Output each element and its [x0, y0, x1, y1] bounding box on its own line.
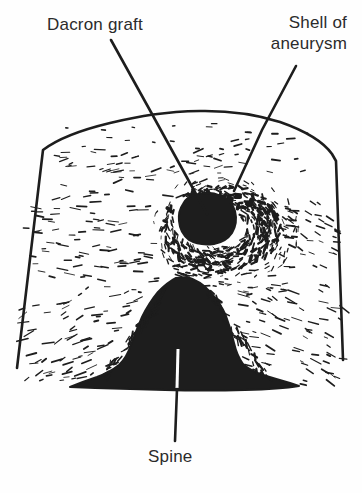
spine-leader-line: [175, 389, 177, 441]
dacron-graft-blob: [179, 193, 236, 245]
label-dacron-graft: Dacron graft: [47, 14, 143, 35]
medical-illustration-figure: Dacron graft Shell of aneurysm Spine: [0, 0, 362, 493]
label-spine: Spine: [148, 446, 192, 467]
label-shell-line2: aneurysm: [271, 33, 347, 54]
dacron-graft-leader-line: [111, 40, 207, 214]
spine-leader-line-inner: [177, 349, 178, 388]
ct-scan-line-drawing: [0, 0, 362, 493]
spine-mass: [70, 265, 299, 391]
shell-of-aneurysm-leader-line: [234, 66, 296, 191]
label-shell-of-aneurysm: Shell of aneurysm: [271, 12, 347, 54]
label-shell-line1: Shell of: [271, 12, 347, 33]
